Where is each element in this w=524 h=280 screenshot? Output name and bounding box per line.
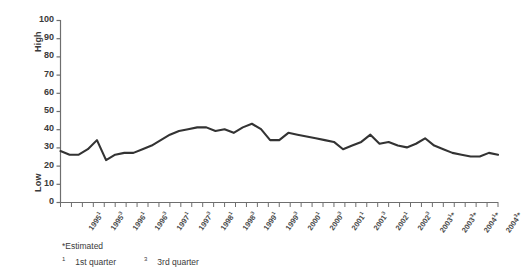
footnote-q3-label: 3rd quarter: [157, 257, 199, 267]
footnote-quarters: 11st quarter33rd quarter: [62, 253, 199, 269]
footnote-q1-marker: 1: [62, 256, 65, 262]
footnote-estimated: *Estimated: [62, 240, 199, 253]
footnote-q1-label: 1st quarter: [75, 257, 116, 267]
axis-lines: [61, 20, 499, 203]
x-axis-ticks: [61, 202, 499, 207]
data-series-line: [61, 124, 499, 160]
footnote-q3-marker: 3: [144, 256, 147, 262]
footnotes-block: *Estimated 11st quarter33rd quarter: [62, 240, 199, 269]
